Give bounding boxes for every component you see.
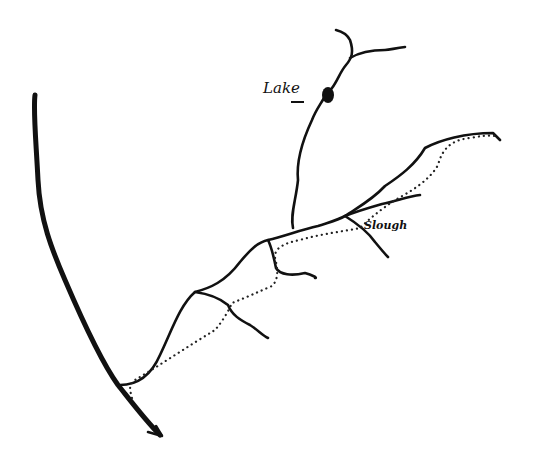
- lake-label-underline: [291, 101, 304, 103]
- slough-branch-upper: [345, 195, 420, 216]
- main-river: [34, 95, 160, 435]
- stream-fork-right: [350, 47, 405, 58]
- side-stream-lower: [195, 292, 268, 338]
- lake-label: Lake: [263, 79, 300, 97]
- figure-caption-cutoff: [0, 452, 533, 461]
- side-stream-middle: [268, 240, 316, 278]
- tributary-main: [120, 133, 500, 385]
- lake-icon: [322, 87, 334, 103]
- stream-to-lake: [292, 98, 324, 228]
- river-sketch-map: [0, 0, 533, 461]
- slough-label: Slough: [364, 219, 407, 232]
- dotted-trail: [130, 136, 495, 398]
- stream-above-lake: [332, 30, 352, 88]
